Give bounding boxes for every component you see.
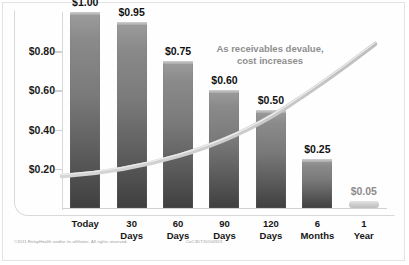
bar-top-cap [209,90,239,93]
bar-value-label: $0.75 [165,45,191,57]
x-axis-label-line: 30 [108,218,154,230]
bar[interactable] [349,201,379,208]
bar[interactable] [163,61,193,208]
y-axis-tick-mark [55,169,62,170]
footer-copyright: ©2011 RelayHealth and/or its affiliates.… [14,239,128,244]
bar-top-cap [302,159,332,162]
x-axis-label-line: 90 [201,218,247,230]
bar-group: $0.60 [201,12,247,208]
bar-group: $1.00 [62,12,108,208]
x-axis-label-line: 60 [155,218,201,230]
annotation-line-2: cost increases [208,55,332,67]
footer-code: CoC3DT20100923 [186,239,222,244]
y-axis-tick-mark [55,130,62,131]
chart-annotation: As receivables devalue, cost increases [208,43,332,67]
bar-value-label: $0.05 [351,185,377,197]
x-axis-baseline [62,208,387,209]
bar-value-label: $0.25 [304,143,330,155]
bar-value-label: $0.50 [258,94,284,106]
bar[interactable] [117,22,147,208]
x-axis-label-line: 120 [248,218,294,230]
x-axis-label: Today [62,218,108,230]
bar[interactable] [256,110,286,208]
bar-group: $0.25 [294,12,340,208]
chart-screenshot: $0.80$0.60$0.40$0.20 $1.00$0.95$0.75$0.6… [0,0,409,265]
y-axis-tick-mark [55,90,62,91]
y-axis-tick-label: $0.80 [29,44,55,58]
bar-top-cap [163,61,193,64]
bar-group: $0.95 [108,12,154,208]
bars-layer: $1.00$0.95$0.75$0.60$0.50$0.25$0.05 [62,12,387,208]
bar[interactable] [302,159,332,208]
bar-top-cap [70,12,100,15]
x-axis-label-line: 1 [341,218,387,230]
x-axis-label-line: Today [62,218,108,230]
bar-top-cap [117,22,147,25]
footer: ©2011 RelayHealth and/or its affiliates.… [14,239,394,251]
bar-value-label: $1.00 [72,0,98,8]
bar-value-label: $0.95 [118,6,144,18]
bar[interactable] [70,12,100,208]
y-axis-tick-label: $0.40 [29,123,55,137]
annotation-line-1: As receivables devalue, [208,43,332,55]
bar-group: $0.50 [248,12,294,208]
bar[interactable] [209,90,239,208]
bar-value-label: $0.60 [211,74,237,86]
bar-top-cap [256,110,286,113]
x-axis-label-line: 6 [294,218,340,230]
y-axis-tick-label: $0.60 [29,83,55,97]
bar-group: $0.75 [155,12,201,208]
y-axis-tick-label: $0.20 [29,162,55,176]
bar-group: $0.05 [341,12,387,208]
y-axis-tick-mark [55,51,62,52]
